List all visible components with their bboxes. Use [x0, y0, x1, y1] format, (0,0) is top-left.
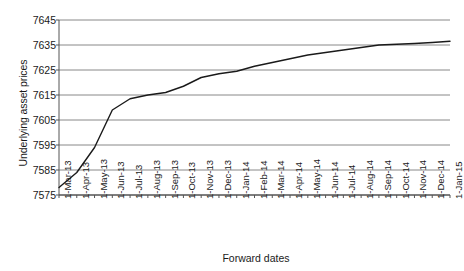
y-axis-title: Underlying asset prices: [17, 28, 29, 198]
x-tick-label: 1-Apr-13: [81, 162, 91, 199]
x-tick-label: 1-Jun-14: [330, 162, 340, 200]
x-tick-label: 1-Feb-14: [259, 160, 269, 199]
x-tick-label: 1-Jan-14: [241, 162, 251, 200]
x-tick-label: 1-Jul-13: [134, 165, 144, 199]
x-axis-title: Forward dates: [186, 252, 326, 264]
x-tick-label: 1-Jul-14: [347, 165, 357, 199]
x-tick-label: 1-Oct-14: [401, 162, 411, 199]
x-tick-label: 1-Sep-14: [383, 160, 393, 199]
x-tick-label: 1-Dec-14: [436, 160, 446, 199]
x-tick-label: 1-Nov-13: [205, 160, 215, 199]
x-tick-label: 1-Jun-13: [116, 162, 126, 200]
x-tick-label: 1-Oct-13: [187, 162, 197, 199]
x-tick-label: 1-Dec-13: [223, 160, 233, 199]
chart-figure: 76457635762576157605759575857575 1-Mar-1…: [0, 0, 464, 271]
x-tick-label: 1-Jan-15: [454, 162, 464, 200]
x-tick-label: 1-Mar-14: [276, 160, 286, 199]
x-tick-label: 1-Mar-13: [63, 160, 73, 199]
x-tick-label: 1-Apr-14: [294, 162, 304, 199]
x-axis-tick-labels: 1-Mar-131-Apr-131-May-131-Jun-131-Jul-13…: [0, 0, 464, 271]
x-tick-label: 1-Sep-13: [170, 160, 180, 199]
x-tick-label: 1-Aug-13: [152, 160, 162, 199]
x-tick-label: 1-May-14: [312, 159, 322, 199]
x-tick-label: 1-Nov-14: [418, 160, 428, 199]
x-tick-label: 1-Aug-14: [365, 160, 375, 199]
x-tick-label: 1-May-13: [99, 159, 109, 199]
